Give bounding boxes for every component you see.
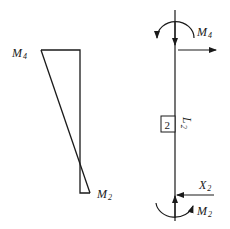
member-length-label: L2 [179,116,194,129]
structural-diagram: M4 M2 M4 2 L2 X2 M2 [0,0,230,229]
moment-diagram: M4 M2 [11,46,112,202]
label-m2-left: M2 [96,187,112,202]
label-m4-left: M4 [11,46,27,61]
moment-diagram-slope [41,50,90,193]
member-number: 2 [165,119,171,131]
label-x2: X2 [198,178,211,193]
label-m4-right: M4 [196,25,212,40]
member-free-body: M4 2 L2 X2 M2 [156,10,216,221]
label-m2-right: M2 [196,204,212,219]
